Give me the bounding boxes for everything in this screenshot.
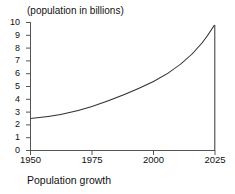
population-growth-figure: (population in billions) [0, 0, 235, 194]
y-tick-label-0: 0 [6, 146, 20, 155]
x-tick-label-1950: 1950 [13, 155, 49, 165]
y-tick-label-4: 4 [6, 95, 20, 104]
y-tick-marks [26, 23, 31, 151]
y-tick-label-10: 10 [6, 18, 20, 27]
y-tick-label-5: 5 [6, 82, 20, 91]
y-tick-label-2: 2 [6, 120, 20, 129]
y-tick-label-9: 9 [6, 31, 20, 40]
x-tick-label-1975: 1975 [74, 155, 110, 165]
y-tick-label-8: 8 [6, 44, 20, 53]
x-tick-label-2025: 2025 [197, 155, 233, 165]
x-tick-marks [31, 151, 216, 156]
y-tick-label-3: 3 [6, 108, 20, 117]
figure-caption: Population growth [27, 174, 111, 186]
y-tick-label-1: 1 [6, 133, 20, 142]
y-tick-label-7: 7 [6, 56, 20, 65]
x-tick-label-2000: 2000 [136, 155, 172, 165]
population-curve [31, 25, 215, 119]
y-tick-label-6: 6 [6, 69, 20, 78]
